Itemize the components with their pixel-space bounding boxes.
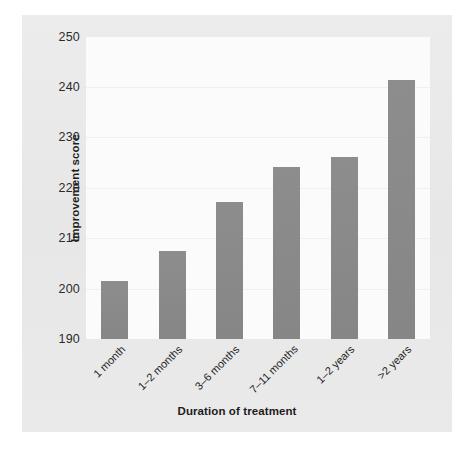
x-tick-label: 7–11 months bbox=[247, 343, 299, 395]
figure: Improvement score 250 240 230 220 210 20… bbox=[0, 0, 474, 451]
y-tick-label: 190 bbox=[34, 333, 80, 346]
bar bbox=[331, 157, 358, 339]
y-tick-label: 220 bbox=[34, 182, 80, 195]
bar bbox=[273, 167, 300, 339]
x-tick-label: >2 years bbox=[361, 343, 413, 395]
x-tick-label: 1–2 years bbox=[304, 343, 356, 395]
x-tick-label: 3–6 months bbox=[189, 343, 241, 395]
y-tick-label: 240 bbox=[34, 81, 80, 94]
y-tick-label: 200 bbox=[34, 283, 80, 296]
bar bbox=[101, 281, 128, 339]
y-axis-ticks: 250 240 230 220 210 200 190 bbox=[22, 37, 80, 339]
y-tick-label: 210 bbox=[34, 232, 80, 245]
y-tick-label: 250 bbox=[34, 31, 80, 44]
plot-area bbox=[86, 37, 430, 339]
bar bbox=[159, 251, 186, 339]
x-axis-title: Duration of treatment bbox=[0, 405, 474, 417]
x-axis-ticks: 1 month1–2 months3–6 months7–11 months1–… bbox=[86, 343, 430, 403]
bar bbox=[388, 80, 415, 339]
bar-series bbox=[86, 37, 430, 339]
y-tick-label: 230 bbox=[34, 131, 80, 144]
bar bbox=[216, 202, 243, 339]
x-tick-label: 1–2 months bbox=[132, 343, 184, 395]
